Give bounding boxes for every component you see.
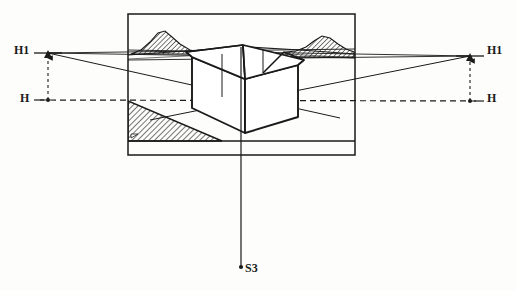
label-vanishing-point-right: H1 — [487, 44, 502, 56]
perspective-diagram: H1 H H1 H S3 — [0, 0, 517, 291]
label-horizon-left: H — [20, 92, 29, 104]
perspective-drawing-canvas — [0, 0, 517, 291]
house-solid — [186, 45, 304, 133]
label-horizon-right: H — [487, 92, 496, 104]
label-station-point: S3 — [245, 262, 258, 274]
label-vanishing-point-left: H1 — [14, 44, 29, 56]
